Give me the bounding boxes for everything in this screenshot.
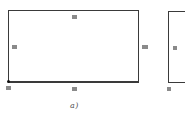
rect-a-right-edge <box>138 10 139 82</box>
label-b-left-outside <box>144 45 148 49</box>
rect-a-top-edge <box>8 10 139 11</box>
label-b-left-inside <box>173 46 177 50</box>
figure-caption-a: a) <box>70 101 79 110</box>
rect-b-bottom-edge <box>168 82 185 83</box>
label-b-corner-bottom-left <box>167 87 171 91</box>
rect-a-bottom-edge <box>8 81 139 83</box>
label-left <box>12 45 17 49</box>
label-corner-bottom-left <box>6 86 11 90</box>
label-top <box>72 15 77 19</box>
rect-b-top-edge <box>168 11 185 12</box>
label-bottom <box>72 87 77 91</box>
rect-a-left-edge <box>8 10 9 82</box>
diagram-canvas: a) <box>0 0 185 116</box>
rect-b-left-edge <box>168 11 169 83</box>
anchor-point <box>7 80 10 83</box>
